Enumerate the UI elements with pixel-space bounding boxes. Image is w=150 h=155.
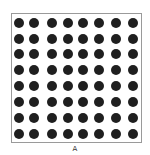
grid-dot (14, 113, 24, 123)
figure-label: A (0, 145, 150, 153)
grid-dot (78, 113, 88, 123)
grid-dot (14, 129, 24, 139)
grid-dot (63, 18, 73, 28)
grid-dot (111, 18, 121, 28)
grid-dot (47, 129, 57, 139)
grid-dot (47, 49, 57, 59)
grid-dot (94, 34, 104, 44)
grid-dot (63, 34, 73, 44)
grid-dot (29, 113, 39, 123)
grid-dot (47, 34, 57, 44)
grid-dot (94, 81, 104, 91)
grid-dot (78, 34, 88, 44)
grid-dot (111, 97, 121, 107)
grid-dot (47, 81, 57, 91)
grid-dot (47, 18, 57, 28)
grid-dot (128, 65, 138, 75)
grid-dot (111, 129, 121, 139)
grid-dot (14, 18, 24, 28)
grid-dot (111, 81, 121, 91)
grid-dot (128, 34, 138, 44)
grid-dot (63, 49, 73, 59)
grid-dot (128, 113, 138, 123)
grid-dot (29, 65, 39, 75)
grid-dot (94, 113, 104, 123)
grid-dot (94, 65, 104, 75)
grid-dot (63, 129, 73, 139)
grid-dot (78, 129, 88, 139)
grid-dot (63, 113, 73, 123)
grid-dot (14, 81, 24, 91)
grid-dot (111, 34, 121, 44)
grid-dot (47, 65, 57, 75)
grid-dot (63, 65, 73, 75)
grid-dot (128, 49, 138, 59)
dot-grid-frame (11, 13, 142, 143)
grid-dot (14, 34, 24, 44)
grid-dot (14, 65, 24, 75)
grid-dot (111, 49, 121, 59)
grid-dot (78, 65, 88, 75)
grid-dot (94, 97, 104, 107)
grid-dot (128, 81, 138, 91)
grid-dot (78, 49, 88, 59)
grid-dot (78, 18, 88, 28)
grid-dot (111, 65, 121, 75)
grid-dot (128, 97, 138, 107)
grid-dot (29, 18, 39, 28)
grid-dot (14, 97, 24, 107)
grid-dot (63, 81, 73, 91)
grid-dot (29, 81, 39, 91)
grid-dot (47, 97, 57, 107)
grid-dot (94, 49, 104, 59)
grid-dot (29, 97, 39, 107)
grid-dot (63, 97, 73, 107)
grid-dot (111, 113, 121, 123)
grid-dot (14, 49, 24, 59)
grid-dot (128, 129, 138, 139)
grid-dot (128, 18, 138, 28)
grid-dot (29, 129, 39, 139)
grid-dot (47, 113, 57, 123)
grid-dot (94, 129, 104, 139)
grid-dot (29, 34, 39, 44)
grid-dot (94, 18, 104, 28)
grid-dot (78, 81, 88, 91)
grid-dot (78, 97, 88, 107)
grid-dot (29, 49, 39, 59)
